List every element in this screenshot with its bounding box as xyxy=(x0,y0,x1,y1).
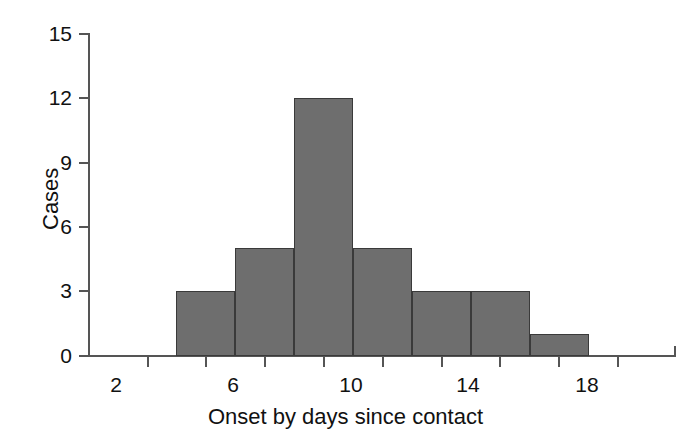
y-axis-line xyxy=(88,33,90,356)
y-tick-15 xyxy=(79,33,89,35)
x-tick-label-14: 14 xyxy=(443,374,493,395)
x-axis-label: Onset by days since contact xyxy=(0,404,691,430)
bar-bin-3-5 xyxy=(176,291,235,356)
x-tick-label-6: 6 xyxy=(208,374,258,395)
y-tick-3 xyxy=(79,290,89,292)
y-tick-label-12: 12 xyxy=(24,87,72,108)
bar-bin-15-17 xyxy=(530,334,589,356)
y-tick-12 xyxy=(79,97,89,99)
x-tick-18 xyxy=(617,356,619,367)
x-tick-2 xyxy=(147,356,149,367)
x-tick-16 xyxy=(558,356,560,367)
x-tick-6 xyxy=(264,356,266,367)
bar-bin-13-15 xyxy=(471,291,530,356)
bar-bin-5-7 xyxy=(235,248,294,356)
y-tick-label-9: 9 xyxy=(24,152,72,173)
bar-bin-11-13 xyxy=(412,291,471,356)
histogram-chart: Cases 15 12 9 6 3 0 2 6 10 14 18 Onset b… xyxy=(0,0,691,443)
x-tick-label-18: 18 xyxy=(562,374,612,395)
x-tick-label-2: 2 xyxy=(91,374,141,395)
x-tick-4 xyxy=(205,356,207,367)
y-tick-label-0: 0 xyxy=(24,345,72,366)
y-tick-9 xyxy=(79,162,89,164)
x-tick-0 xyxy=(88,346,90,356)
y-tick-label-15: 15 xyxy=(24,23,72,44)
y-tick-label-3: 3 xyxy=(24,280,72,301)
y-tick-6 xyxy=(79,226,89,228)
x-tick-20 xyxy=(674,346,676,357)
x-tick-12 xyxy=(441,356,443,367)
x-tick-14 xyxy=(499,356,501,367)
x-tick-8 xyxy=(323,356,325,367)
x-tick-10 xyxy=(382,356,384,367)
bar-bin-7-9 xyxy=(294,98,353,356)
y-tick-label-6: 6 xyxy=(24,216,72,237)
x-tick-label-10: 10 xyxy=(326,374,376,395)
bar-bin-9-11 xyxy=(353,248,412,356)
